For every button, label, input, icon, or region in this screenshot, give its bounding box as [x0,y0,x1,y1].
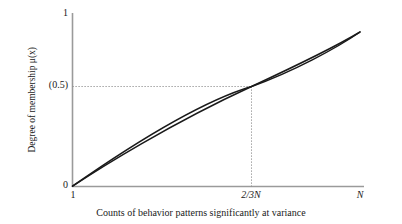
membership-function-figure: 1 (0.5) 0 1 2/3N N Degree of membership … [0,0,402,224]
x-tick-label-two-thirds-n: 2/3N [231,190,271,200]
y-tick-label-1: 1 [56,8,68,18]
x-axis-label: Counts of behavior patterns significantl… [0,208,402,218]
y-tick-label-0: 0 [56,180,68,190]
plot-area [0,0,402,224]
lower-membership-curve [73,32,361,186]
x-tick-label-n: N [350,190,370,200]
x-tick-label-1: 1 [66,190,80,200]
y-axis-label: Degree of membership μ(x) [28,24,38,176]
